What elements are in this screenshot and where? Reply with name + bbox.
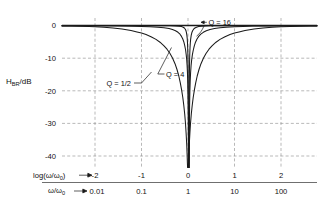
chart-svg: 0 -10 -20 -30 -40 HBR/dB log(ω/ω0) -2 -1… — [0, 0, 326, 207]
curve-q-16-right — [189, 26, 317, 168]
y-tick--30: -30 — [45, 119, 56, 128]
x-tick-log-2: 2 — [279, 171, 283, 180]
x-tick-ratio-0.1: 0.1 — [136, 187, 147, 196]
x-axis-arrow-secondary — [74, 189, 87, 193]
x-tick-log-1: 1 — [232, 171, 236, 180]
x-axis-secondary-row: ω/ω0 0.01 0.1 1 10 100 — [48, 186, 287, 196]
y-tick--40: -40 — [45, 152, 56, 161]
curve-q-4-right — [189, 26, 317, 168]
curve-q-4 — [62, 26, 189, 168]
svg-text:HBR/dB: HBR/dB — [6, 77, 32, 87]
annotation-q-0.5: Q = 1/2 — [107, 79, 131, 88]
y-tick--10: -10 — [45, 54, 56, 63]
x-axis-arrow-primary — [79, 173, 92, 177]
curve-q-0.5 — [62, 26, 188, 168]
figure-bandreject-response: 0 -10 -20 -30 -40 HBR/dB log(ω/ω0) -2 -1… — [0, 0, 326, 207]
x-tick-ratio-1: 1 — [186, 187, 190, 196]
y-axis-title-sub: BR — [12, 81, 20, 87]
annotation-q-16: Q = 16 — [209, 18, 231, 27]
curve-q-16 — [62, 26, 188, 168]
x-tick-ratio-10: 10 — [230, 187, 238, 196]
x-tick-log--2: -2 — [92, 171, 99, 180]
x-axis-primary-row: log(ω/ω0) -2 -1 0 1 2 — [33, 171, 283, 181]
x-axis-caption-log: log(ω/ω0) — [33, 171, 66, 181]
y-tick-0: 0 — [52, 21, 56, 30]
x-tick-log--1: -1 — [138, 171, 145, 180]
curve-q-0.5-right — [188, 26, 317, 168]
x-tick-ratio-100: 100 — [275, 187, 288, 196]
annotation-q-4: Q = 4 — [166, 70, 184, 79]
leader-q-0.5 — [134, 72, 152, 83]
y-axis-title-unit: /dB — [20, 77, 32, 86]
x-tick-log-0: 0 — [186, 171, 190, 180]
y-axis-title: HBR/dB — [6, 77, 32, 87]
y-tick-labels: 0 -10 -20 -30 -40 — [45, 21, 56, 160]
y-tick--20: -20 — [45, 87, 56, 96]
x-tick-ratio-0.01: 0.01 — [90, 187, 105, 196]
x-axis-caption-ratio: ω/ω0 — [48, 186, 65, 196]
